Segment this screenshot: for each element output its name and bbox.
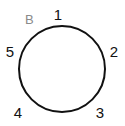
pin-label-2: 2: [106, 44, 122, 59]
view-label-b: B: [25, 13, 34, 26]
pin-label-1: 1: [50, 7, 66, 22]
connector-pinout-diagram: B 1 2 3 4 5: [0, 0, 125, 126]
pin-label-3: 3: [92, 105, 108, 120]
pin-label-4: 4: [10, 105, 26, 120]
connector-body-circle: [19, 26, 105, 112]
pin-label-5: 5: [2, 44, 18, 59]
